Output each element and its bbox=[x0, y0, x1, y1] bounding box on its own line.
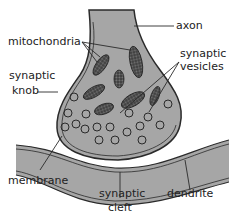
label-synaptic-vesicles-2: vesicles bbox=[180, 60, 224, 73]
label-dendrite: dendrite bbox=[167, 187, 214, 200]
label-synaptic-knob-1: synaptic bbox=[9, 69, 55, 82]
label-synaptic-cleft-2: cleft bbox=[108, 201, 133, 214]
label-mitochondria: mitochondria bbox=[8, 35, 81, 48]
label-membrane: membrane bbox=[8, 174, 68, 187]
label-synaptic-cleft-1: synaptic bbox=[99, 187, 145, 200]
label-axon: axon bbox=[176, 19, 203, 32]
label-synaptic-knob-2: knob bbox=[12, 84, 39, 97]
label-synaptic-vesicles-1: synaptic bbox=[180, 47, 226, 60]
synapse-diagram: axon mitochondria synaptic vesicles syna… bbox=[0, 0, 229, 222]
